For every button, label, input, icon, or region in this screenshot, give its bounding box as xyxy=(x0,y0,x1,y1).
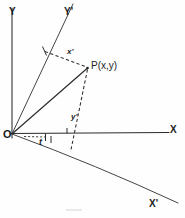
point-p-marker xyxy=(86,67,89,70)
point-p-label: P(x,y) xyxy=(91,61,117,71)
figure-canvas xyxy=(0,0,185,218)
y-axis-label: Y xyxy=(9,7,16,17)
x-prime-axis-label: X' xyxy=(149,199,158,209)
angle-t-label: t xyxy=(39,138,42,147)
origin-label: O xyxy=(3,129,12,140)
x-prime-foot-tick xyxy=(43,47,47,56)
rotated-axes-figure: Y Y' X X' O P(x,y) x' y' t xyxy=(0,0,185,218)
y-prime-projection-line xyxy=(71,70,88,153)
x-prime-coordinate-label: x' xyxy=(67,48,73,56)
op-radius-line xyxy=(13,69,88,134)
y-prime-axis-label: Y' xyxy=(64,7,73,17)
x-axis-label: X xyxy=(170,125,177,135)
x-axis-line xyxy=(10,133,169,134)
y-prime-coordinate-label: y' xyxy=(71,113,77,121)
y-prime-axis-line xyxy=(12,4,73,134)
x-prime-axis-line xyxy=(12,134,178,203)
scan-artifact xyxy=(66,209,82,211)
x-prime-projection-line xyxy=(45,52,87,68)
